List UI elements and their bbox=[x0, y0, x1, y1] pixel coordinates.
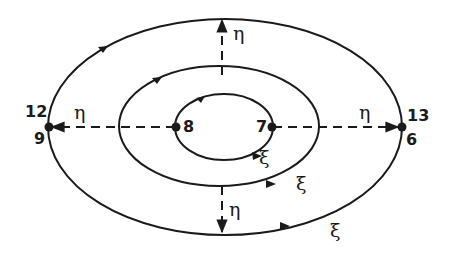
eta-label-left: η bbox=[74, 103, 85, 122]
diagram-canvas: 8 7 12 9 13 6 η η η η ξ ξ ξ bbox=[0, 0, 450, 260]
node-9-label: 9 bbox=[34, 131, 45, 147]
node-8-label: 8 bbox=[183, 119, 194, 135]
eta-label-right: η bbox=[359, 103, 370, 122]
node-7-dot bbox=[268, 123, 277, 132]
contour-diagram-graphic bbox=[0, 0, 450, 260]
xi-label-outer: ξ bbox=[330, 221, 340, 240]
node-8-dot bbox=[172, 123, 181, 132]
xi-label-inner: ξ bbox=[259, 148, 269, 167]
node-13-label: 13 bbox=[407, 108, 429, 124]
node-12-label: 12 bbox=[25, 104, 47, 120]
node-7-label: 7 bbox=[256, 119, 267, 135]
node-6-label: 6 bbox=[406, 132, 417, 148]
middle-bottom-arrowhead-icon bbox=[266, 180, 276, 188]
xi-label-middle: ξ bbox=[296, 174, 306, 193]
contour-arrowheads bbox=[98, 46, 290, 230]
eta-label-top: η bbox=[233, 24, 244, 43]
eta-label-bottom: η bbox=[229, 200, 240, 219]
node-12-9-dot bbox=[45, 123, 54, 132]
